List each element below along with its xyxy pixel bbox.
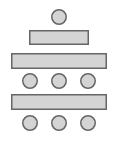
seating-diagram bbox=[0, 0, 116, 144]
head-seat bbox=[52, 10, 67, 25]
seat-row-1-right bbox=[81, 74, 96, 89]
table-1 bbox=[12, 54, 107, 69]
seat-row-2-center bbox=[52, 116, 67, 131]
seat-row-1-left bbox=[23, 74, 38, 89]
head-table bbox=[30, 31, 89, 45]
seat-row-1-center bbox=[52, 74, 67, 89]
table-2 bbox=[12, 95, 107, 110]
seat-row-2-left bbox=[23, 116, 38, 131]
seat-row-2-right bbox=[81, 116, 96, 131]
